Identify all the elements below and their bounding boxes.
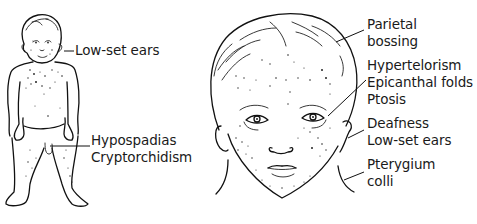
face-pupil-right	[312, 116, 314, 118]
body-hair	[26, 19, 58, 30]
leader-pterygium-colli	[344, 172, 364, 180]
body-genital	[45, 143, 52, 154]
label-hypospadias: Hypospadias	[91, 132, 176, 149]
body-left-arm	[14, 82, 24, 140]
label-pterygium: Pterygium	[367, 156, 435, 173]
face-pupil-left	[256, 118, 258, 120]
label-colli: colli	[367, 173, 393, 190]
body-eye-left	[35, 42, 37, 44]
label-body-low-set-ears: Low-set ears	[75, 42, 159, 59]
body-mouth	[38, 56, 47, 58]
leader-parietal-bossing	[336, 30, 364, 42]
body-nose	[40, 50, 44, 51]
label-cryptorchidism: Cryptorchidism	[91, 149, 192, 166]
label-ptosis: Ptosis	[367, 91, 406, 108]
leader-epicanthal-folds	[328, 80, 366, 116]
body-head-outline	[22, 15, 61, 63]
label-hypertelorism: Hypertelorism	[367, 57, 461, 74]
body-left-leg	[6, 138, 44, 206]
face-neck-left	[216, 160, 228, 194]
label-deafness: Deafness	[367, 115, 429, 132]
face-brow-left	[240, 105, 268, 110]
label-bossing: bossing	[367, 33, 418, 50]
body-right-arm	[64, 82, 73, 140]
face-left-ear	[216, 126, 228, 151]
body-right-leg	[52, 136, 88, 206]
face-mouth-line	[268, 168, 296, 170]
face-figure	[211, 14, 366, 198]
face-head-outline	[211, 14, 357, 130]
face-mouth-lower	[272, 174, 294, 177]
body-eye-right	[47, 42, 49, 44]
label-epicanthal-folds: Epicanthal folds	[367, 74, 473, 91]
face-mouth-upper	[268, 166, 296, 169]
body-belly	[24, 124, 64, 129]
label-face-low-set-ears: Low-set ears	[367, 132, 451, 149]
label-parietal: Parietal	[367, 16, 417, 33]
face-brow-right	[300, 105, 326, 110]
face-nose	[269, 148, 293, 154]
